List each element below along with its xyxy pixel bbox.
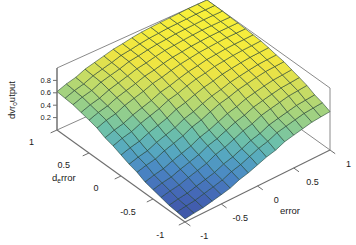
tick-label: 0.2 [41, 113, 51, 122]
tick-label: -0.5 [233, 213, 249, 223]
tick-label: 0.4 [41, 101, 51, 110]
tick-label: 0.6 [41, 88, 51, 97]
tick-label: 1 [346, 159, 351, 169]
tick-label: 0.8 [41, 76, 51, 85]
tick-label: 0 [274, 195, 279, 205]
y-axis-label-group: derror [52, 172, 76, 184]
tick-label: 0.5 [306, 177, 319, 187]
tick-label: 0.5 [57, 160, 70, 170]
tick-label: -1 [156, 230, 164, 240]
tick-label: -0.5 [120, 207, 136, 217]
y-axis-label: derror [52, 172, 76, 184]
tick-label: -1 [200, 231, 208, 241]
x-axis-label: error [280, 205, 300, 216]
x-axis-label-group: error [280, 205, 300, 216]
tick-label: 0 [93, 183, 98, 193]
z-axis-label-group: dvroutput [6, 81, 18, 119]
tick-label: 1 [29, 137, 34, 147]
z-axis-label: dvroutput [6, 81, 18, 119]
surface-plot-figure: -1-0.500.51-1-0.500.510.80.60.40.2 dvrou… [0, 0, 356, 245]
